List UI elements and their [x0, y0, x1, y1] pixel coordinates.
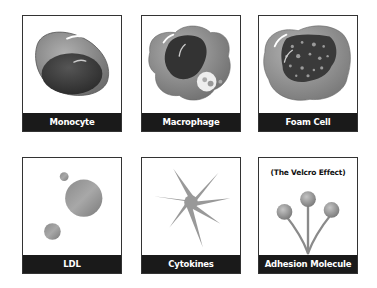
card-ldl: LDL: [22, 157, 122, 274]
card-monocyte: Monocyte: [22, 15, 122, 132]
card-label: LDL: [23, 255, 121, 273]
card-label: Adhesion Molecule: [259, 255, 357, 273]
card-label: Monocyte: [23, 113, 121, 131]
card-label: Cytokines: [142, 255, 240, 273]
card-label: Foam Cell: [259, 113, 357, 131]
card-adhesion-molecule: (The Velcro Effect) Adhesion Molecule: [258, 157, 358, 274]
card-cytokines: Cytokines: [141, 157, 241, 274]
card-foam-cell: Foam Cell: [258, 15, 358, 132]
cytokine-icon: [142, 158, 240, 256]
monocyte-icon: [23, 16, 121, 114]
foam-cell-icon: [259, 16, 357, 114]
card-label: Macrophage: [142, 113, 240, 131]
card-macrophage: Macrophage: [141, 15, 241, 132]
adhesion-molecule-icon: [259, 158, 357, 256]
macrophage-icon: [142, 16, 240, 114]
ldl-icon: [23, 158, 121, 256]
